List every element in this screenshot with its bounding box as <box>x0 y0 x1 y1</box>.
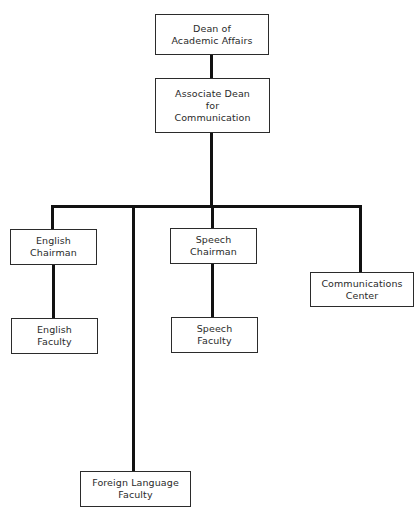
node-label-line: Faculty <box>197 335 231 347</box>
connector-bus-english-chair <box>51 205 54 230</box>
connector-english-chair-faculty <box>52 264 55 319</box>
node-label-line: Chairman <box>30 247 77 259</box>
node-label-line: Center <box>346 290 379 302</box>
connector-speech-chair-faculty <box>211 263 214 318</box>
node-label-line: Communication <box>174 112 250 124</box>
connector-assoc-bus <box>210 132 213 208</box>
node-label-line: Foreign Language <box>92 477 179 489</box>
node-label-line: Communications <box>321 278 402 290</box>
node-dean-academic-affairs: Dean of Academic Affairs <box>155 14 269 55</box>
node-english-chairman: English Chairman <box>10 229 97 265</box>
connector-bus-comm-center <box>359 205 362 273</box>
connector-dean-assoc <box>210 54 213 79</box>
node-communications-center: Communications Center <box>310 272 414 307</box>
node-label-line: Associate Dean <box>175 88 250 100</box>
node-label-line: Dean of <box>193 23 231 35</box>
connector-bus-foreign-lang <box>132 205 135 472</box>
node-speech-chairman: Speech Chairman <box>170 228 257 264</box>
node-label-line: Speech <box>197 323 233 335</box>
node-label-line: Chairman <box>190 246 237 258</box>
node-label-line: for <box>206 100 219 112</box>
node-foreign-language-faculty: Foreign Language Faculty <box>80 471 191 507</box>
connector-bus-speech-chair <box>211 205 214 229</box>
node-label-line: English <box>36 235 71 247</box>
connector-horizontal-bus <box>51 205 362 208</box>
node-label-line: Speech <box>196 234 232 246</box>
node-label-line: Academic Affairs <box>171 35 252 47</box>
node-label-line: Faculty <box>118 489 152 501</box>
org-chart: Dean of Academic Affairs Associate Dean … <box>0 0 420 517</box>
node-associate-dean: Associate Dean for Communication <box>155 78 270 133</box>
node-english-faculty: English Faculty <box>11 318 98 354</box>
node-label-line: Faculty <box>37 336 71 348</box>
node-label-line: English <box>37 324 72 336</box>
node-speech-faculty: Speech Faculty <box>171 317 258 353</box>
